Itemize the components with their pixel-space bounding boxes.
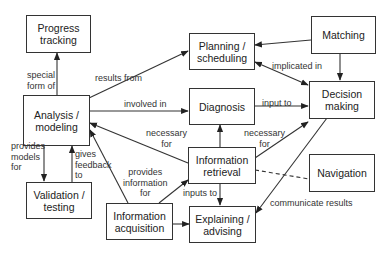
node-progress-tracking: Progress tracking xyxy=(26,15,91,53)
label-involved-in: involved in xyxy=(124,99,167,110)
node-label: Decision making xyxy=(322,88,362,112)
node-label: Planning / scheduling xyxy=(197,40,247,64)
node-label: Progress tracking xyxy=(37,22,79,46)
edge-matching-to-planning xyxy=(255,40,311,45)
label-special-form-of: special form of xyxy=(27,70,55,91)
node-label: Information retrieval xyxy=(196,154,249,178)
node-label: Matching xyxy=(322,29,365,41)
node-information-retrieval: Information retrieval xyxy=(188,147,256,184)
label-provides-models-for: provides models for xyxy=(11,141,45,173)
node-label: Explaining / advising xyxy=(195,213,249,237)
node-label: Analysis / modeling xyxy=(34,109,79,133)
label-implicated-in: implicated in xyxy=(272,61,322,72)
label-input-to: input to xyxy=(262,98,292,109)
node-analysis-modeling: Analysis / modeling xyxy=(23,95,90,146)
node-label: Diagnosis xyxy=(199,101,245,113)
node-decision-making: Decision making xyxy=(309,81,375,119)
label-provides-information-for: provides information for xyxy=(123,167,168,199)
node-diagnosis: Diagnosis xyxy=(189,88,255,125)
node-explaining-advising: Explaining / advising xyxy=(189,206,256,243)
label-necessary-for-analysis: necessary for xyxy=(146,128,187,149)
node-label: Information acquisition xyxy=(113,210,166,234)
label-results-from: results from xyxy=(95,73,142,84)
node-label: Navigation xyxy=(317,167,367,179)
label-gives-feedback-to: gives feedback to xyxy=(75,149,112,181)
node-matching: Matching xyxy=(311,16,376,54)
node-label: Validation / testing xyxy=(33,189,84,213)
label-inputs-to: inputs to xyxy=(183,188,217,199)
label-necessary-for-decision: necessary for xyxy=(244,128,285,149)
node-planning-scheduling: Planning / scheduling xyxy=(189,33,255,70)
node-validation-testing: Validation / testing xyxy=(26,182,92,219)
node-information-acquisition: Information acquisition xyxy=(106,203,173,240)
label-communicate-results: communicate results xyxy=(270,198,353,209)
node-navigation: Navigation xyxy=(309,154,375,192)
